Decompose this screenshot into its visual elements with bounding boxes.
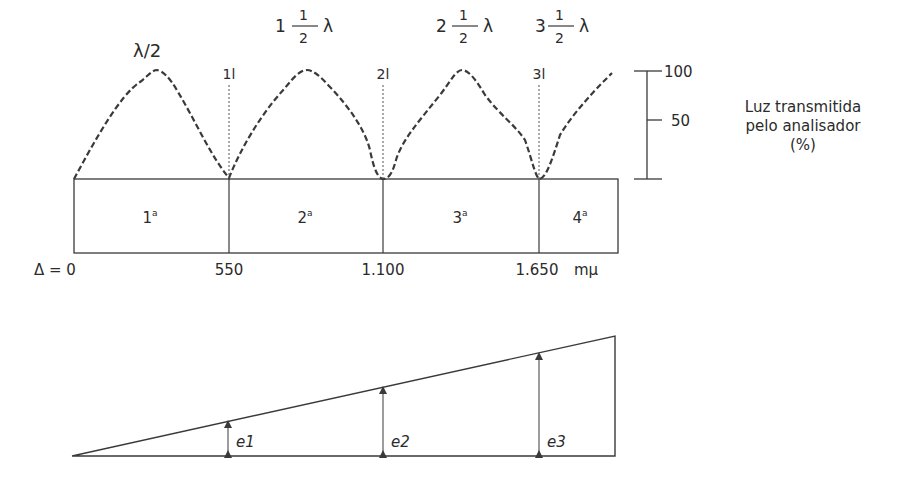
retardation-label-550: 550: [215, 261, 244, 279]
scale-title-line-2: pelo analisador: [746, 117, 862, 135]
peak-label-3-num: 1: [555, 7, 564, 23]
scale-title-line-1: Luz transmitida: [745, 98, 861, 116]
order-mark-1: 1l: [223, 66, 236, 82]
peak-label-2-lambda: λ: [483, 16, 493, 36]
interference-diagram: λ/2 1 1 2 λ 2 1 2 λ 3 1 2 λ 1l 2l 3l 1a …: [0, 0, 905, 483]
peak-label-1-den: 2: [299, 30, 308, 46]
thickness-label-e3: e3: [547, 433, 566, 451]
peak-label-2-num: 1: [459, 7, 468, 23]
order-label-1: 1a: [142, 208, 157, 227]
thickness-label-e1: e1: [236, 433, 255, 451]
order-mark-3: 3l: [533, 66, 546, 82]
peak-label-2-den: 2: [459, 30, 468, 46]
retardation-label-0: Δ = 0: [34, 261, 76, 279]
peak-label-1-whole: 1: [275, 16, 286, 36]
peak-label-3-whole: 3: [535, 16, 546, 36]
peak-label-2-whole: 2: [436, 16, 447, 36]
transmission-scale: [634, 71, 662, 179]
order-label-3: 3a: [452, 208, 467, 227]
peak-label-1-num: 1: [299, 7, 308, 23]
scale-tick-100: 100: [664, 63, 693, 81]
order-label-2: 2a: [297, 208, 312, 227]
peak-label-3-lambda: λ: [579, 16, 589, 36]
peak-label-3-den: 2: [555, 30, 564, 46]
transmission-curve: [74, 70, 612, 179]
scale-title-line-3: (%): [790, 136, 816, 154]
scale-tick-50: 50: [671, 112, 690, 130]
peak-label-1-lambda: λ: [323, 16, 333, 36]
retardation-label-1650: 1.650: [516, 261, 559, 279]
retardation-unit: mμ: [574, 261, 599, 279]
thickness-label-e2: e2: [391, 433, 410, 451]
retardation-label-1100: 1.100: [362, 261, 405, 279]
order-mark-2: 2l: [377, 66, 390, 82]
quartz-wedge: [72, 336, 615, 456]
peak-label-half: λ/2: [133, 40, 161, 61]
order-label-4: 4a: [572, 208, 587, 227]
